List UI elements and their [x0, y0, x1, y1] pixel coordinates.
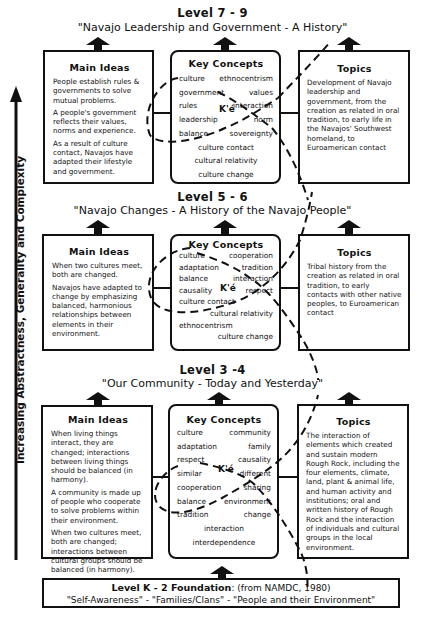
foundation-title: Level K - 2 Foundation	[111, 582, 231, 593]
foundation-title-line: Level K - 2 Foundation: (from NAMDC, 198…	[44, 582, 398, 594]
concept-row: governmentvalues	[179, 86, 273, 100]
main-idea-text: People establish rules & governments to …	[53, 77, 146, 105]
topics-text: Tribal history from the creation as rela…	[307, 262, 402, 318]
concept: tradition	[242, 262, 273, 274]
main-idea-text: When living things interact, they are ch…	[51, 429, 145, 485]
ke-center-term: K'é	[218, 464, 234, 474]
concept-row: balancesovereignty	[179, 127, 273, 141]
ke-center-term: K'é	[219, 104, 235, 114]
main-idea-text: When two cultures meet, both are changed…	[52, 261, 146, 280]
level-7-9-topics-box: Topics Development of Navajo leadership …	[298, 50, 410, 184]
concept-row: adaptationtradition	[179, 262, 273, 274]
concept: family	[248, 440, 271, 454]
concept: tradition	[177, 508, 208, 522]
concept: cooperation	[177, 481, 221, 495]
concept: adaptation	[179, 262, 219, 274]
concept: balance	[177, 495, 206, 509]
main-idea-text: As a result of culture contact, Navajos …	[53, 139, 146, 176]
concept: culture	[179, 72, 205, 86]
main-idea-text: When two cultures meet, both are changed…	[51, 528, 145, 574]
key-concepts-heading: Key Concepts	[177, 414, 271, 425]
level-3-4-title: Level 3 -4	[0, 363, 425, 377]
topics-heading: Topics	[307, 63, 402, 74]
concept-row: balanceenvironment	[177, 495, 271, 509]
key-concepts-heading: Key Concepts	[179, 58, 273, 69]
topics-text: The interaction of elements which create…	[306, 431, 401, 552]
level-3-4-subtitle: "Our Community - Today and Yesterday"	[0, 377, 425, 390]
main-ideas-heading: Main Ideas	[53, 62, 146, 73]
level-7-9-subtitle: "Navajo Leadership and Government - A Hi…	[0, 21, 425, 34]
concept: sharing	[243, 481, 271, 495]
main-idea-text: A community is made up of people who coo…	[51, 488, 145, 525]
concept: causality	[238, 453, 271, 467]
concept: similar	[177, 467, 202, 481]
level-5-6-key-concepts-box: Key Concepts culturecooperation adaptati…	[170, 234, 281, 351]
concept: ethnocentrism	[179, 320, 273, 332]
main-ideas-heading: Main Ideas	[51, 414, 145, 425]
concept: rules	[179, 99, 197, 113]
concept-row: cooperationsharing	[177, 481, 271, 495]
concept: culture change	[179, 168, 273, 182]
concept: culture change	[179, 331, 273, 343]
level-5-6-title: Level 5 - 6	[0, 190, 425, 204]
concept: community	[229, 426, 271, 440]
concept: interaction	[177, 522, 271, 536]
concept: culture	[179, 250, 205, 262]
concept: values	[249, 86, 273, 100]
concept: leadership	[179, 113, 218, 127]
concept: interaction	[233, 99, 273, 113]
topics-heading: Topics	[307, 247, 402, 258]
concept: culture contact	[179, 296, 273, 308]
concept-row: leadershipnorm	[179, 113, 273, 127]
level-3-4-topics-box: Topics The interaction of elements which…	[297, 404, 409, 559]
key-concepts-heading: Key Concepts	[179, 239, 273, 250]
concept-row: culturecooperation	[179, 250, 273, 262]
concept: balance	[179, 127, 208, 141]
level-7-9-key-concepts-box: Key Concepts cultureethnocentrism govern…	[170, 50, 281, 184]
concept: causality	[179, 285, 212, 297]
concept: government	[179, 86, 224, 100]
concept: culture contact	[179, 141, 273, 155]
level-5-6-main-ideas-box: Main Ideas When two cultures meet, both …	[42, 234, 154, 351]
main-idea-text: Navajos have adapted to change by emphas…	[52, 283, 146, 339]
concept-row: culturecommunity	[177, 426, 271, 440]
concept: respect	[246, 285, 273, 297]
concept: cultural relativity	[179, 154, 273, 168]
concept: interaction	[233, 273, 273, 285]
concept-row: adaptationfamily	[177, 440, 271, 454]
concept: respect	[177, 453, 204, 467]
concept: culture	[177, 426, 203, 440]
concept: environment	[224, 495, 271, 509]
level-5-6-topics-box: Topics Tribal history from the creation …	[298, 234, 410, 351]
foundation-source: : (from NAMDC, 1980)	[231, 583, 330, 593]
level-7-9-title: Level 7 - 9	[0, 6, 425, 20]
concept: balance	[179, 273, 208, 285]
foundation-themes: "Self-Awareness" - "Families/Clans" - "P…	[44, 594, 398, 606]
level-3-4-key-concepts-box: Key Concepts culturecommunity adaptation…	[168, 404, 279, 559]
concept-row: cultureethnocentrism	[179, 72, 273, 86]
topics-heading: Topics	[306, 416, 401, 427]
concept: cooperation	[229, 250, 273, 262]
concept: cultural relativity	[179, 308, 273, 320]
concept-row: traditionchange	[177, 508, 271, 522]
ke-center-term: K'é	[220, 283, 236, 293]
level-3-4-main-ideas-box: Main Ideas When living things interact, …	[41, 405, 153, 559]
topics-text: Development of Navajo leadership and gov…	[307, 78, 402, 152]
concept: different	[240, 467, 271, 481]
concept: sovereignty	[230, 127, 273, 141]
foundation-box: Level K - 2 Foundation: (from NAMDC, 198…	[42, 578, 400, 608]
concept: norm	[254, 113, 273, 127]
concept: change	[244, 508, 271, 522]
level-7-9-main-ideas-box: Main Ideas People establish rules & gove…	[43, 50, 154, 184]
main-idea-text: A people's government reflects their val…	[53, 108, 146, 136]
concept: ethnocentrism	[219, 72, 273, 86]
main-ideas-heading: Main Ideas	[52, 246, 146, 257]
concept: adaptation	[177, 440, 217, 454]
concept: interdependence	[177, 536, 271, 550]
level-5-6-subtitle: "Navajo Changes - A History of the Navaj…	[0, 204, 425, 217]
